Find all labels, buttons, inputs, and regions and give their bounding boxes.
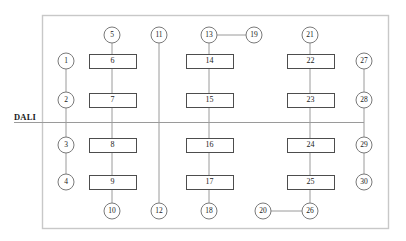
node-circle-label-30: 30 [360,177,368,186]
device-box-24[interactable]: 24 [288,139,335,153]
node-circle-label-19: 19 [250,30,258,39]
device-box-16[interactable]: 16 [187,139,234,153]
device-box-17[interactable]: 17 [187,176,234,190]
node-circle-label-2: 2 [64,95,68,104]
node-circle-label-3: 3 [64,140,68,149]
device-box-label-9: 9 [111,177,115,186]
node-circle-label-4: 4 [64,177,68,186]
node-circle-19[interactable]: 19 [246,27,262,43]
device-box-7[interactable]: 7 [90,94,137,108]
node-circle-10[interactable]: 10 [104,203,120,219]
node-circle-12[interactable]: 12 [151,203,167,219]
device-box-label-16: 16 [206,140,214,149]
node-circle-label-21: 21 [306,30,314,39]
device-box-label-22: 22 [307,56,315,65]
device-box-label-24: 24 [307,140,315,149]
node-circle-2[interactable]: 2 [58,92,74,108]
device-box-15[interactable]: 15 [187,94,234,108]
device-box-23[interactable]: 23 [288,94,335,108]
node-circle-21[interactable]: 21 [302,27,318,43]
node-circle-label-26: 26 [306,206,314,215]
node-circle-5[interactable]: 5 [104,27,120,43]
device-box-8[interactable]: 8 [90,139,137,153]
node-circle-label-18: 18 [205,206,213,215]
device-box-9[interactable]: 9 [90,176,137,190]
device-box-25[interactable]: 25 [288,176,335,190]
device-box-label-8: 8 [111,140,115,149]
node-circle-4[interactable]: 4 [58,174,74,190]
node-circle-label-1: 1 [64,56,68,65]
node-circle-label-11: 11 [155,30,162,39]
device-box-label-6: 6 [111,56,115,65]
diagram-canvas: 67891415161722232425 1234510111213191821… [0,0,406,241]
device-box-label-23: 23 [307,95,315,104]
device-box-14[interactable]: 14 [187,55,234,69]
device-box-22[interactable]: 22 [288,55,335,69]
node-circle-28[interactable]: 28 [356,92,372,108]
device-box-label-25: 25 [307,177,315,186]
node-circle-30[interactable]: 30 [356,174,372,190]
node-circle-27[interactable]: 27 [356,53,372,69]
device-box-label-7: 7 [111,95,115,104]
node-circle-26[interactable]: 26 [302,203,318,219]
device-box-6[interactable]: 6 [90,55,137,69]
node-circle-20[interactable]: 20 [255,203,271,219]
device-box-label-15: 15 [206,95,214,104]
node-circle-label-27: 27 [360,56,368,65]
dali-topology-diagram: 67891415161722232425 1234510111213191821… [0,0,406,241]
node-circle-1[interactable]: 1 [58,53,74,69]
device-box-label-14: 14 [206,56,214,65]
node-circle-11[interactable]: 11 [151,27,167,43]
dali-bus-label: DALI [14,113,36,122]
device-box-label-17: 17 [206,177,214,186]
node-circle-18[interactable]: 18 [201,203,217,219]
node-circle-3[interactable]: 3 [58,137,74,153]
node-circle-label-29: 29 [360,140,368,149]
node-circle-label-13: 13 [205,30,213,39]
node-circle-label-10: 10 [108,206,116,215]
node-circle-29[interactable]: 29 [356,137,372,153]
node-circle-label-5: 5 [110,30,114,39]
node-circle-label-12: 12 [155,206,163,215]
node-circle-label-20: 20 [259,206,267,215]
node-circle-13[interactable]: 13 [201,27,217,43]
node-circle-label-28: 28 [360,95,368,104]
